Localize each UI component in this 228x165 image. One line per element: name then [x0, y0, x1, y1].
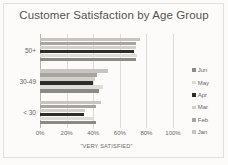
legend-item-jan[interactable]: Jan [192, 126, 226, 138]
bar-group-row [40, 85, 103, 88]
legend-label-feb: Feb [198, 117, 208, 123]
legend-item-may[interactable]: May [192, 76, 226, 88]
bar-jan-3049 [40, 69, 108, 72]
legend-swatch-mar [192, 106, 196, 110]
bar-group-row [40, 50, 134, 53]
bar-may-30 [40, 117, 93, 120]
legend-swatch-may [192, 81, 196, 85]
bar-group-row [40, 73, 97, 76]
chart-legend: JunMayAprMarFebJan [192, 64, 226, 138]
bar-jun-50 [40, 58, 136, 61]
legend-item-feb[interactable]: Feb [192, 114, 226, 126]
legend-swatch-apr [192, 93, 196, 97]
bar-group-row [40, 121, 96, 124]
legend-swatch-feb [192, 118, 196, 122]
bar-group-row [40, 46, 136, 49]
y-axis-label-3049: 30-49 [19, 78, 36, 85]
bar-jan-50 [40, 38, 140, 41]
legend-label-apr: Apr [198, 92, 207, 98]
bar-group-row [40, 81, 93, 84]
bar-group-row [40, 105, 96, 108]
bar-group-row [40, 54, 137, 57]
bar-jun-30 [40, 121, 96, 124]
chart-container: Customer Satisfaction by Age Group 50+30… [0, 0, 228, 165]
bar-may-50 [40, 54, 137, 57]
bar-group-row [40, 109, 85, 112]
bar-feb-30 [40, 105, 96, 108]
bar-mar-50 [40, 46, 136, 49]
legend-label-jun: Jun [198, 67, 208, 73]
bar-group-row [40, 58, 136, 61]
y-axis-category-labels: 50+30-49< 30 [0, 34, 38, 128]
bar-apr-3049 [40, 81, 93, 84]
legend-label-jan: Jan [198, 129, 208, 135]
x-axis-tick-20: 20% [61, 130, 73, 136]
plot-area [40, 34, 173, 128]
y-axis-label-30: < 30 [23, 109, 36, 116]
bar-apr-30 [40, 113, 84, 116]
bar-mar-30 [40, 109, 85, 112]
legend-label-mar: Mar [198, 104, 208, 110]
bar-apr-50 [40, 50, 134, 53]
bar-group-row [40, 89, 99, 92]
gridline [146, 34, 147, 128]
x-axis-tick-40: 40% [87, 130, 99, 136]
x-axis-tick-80: 80% [140, 130, 152, 136]
bar-mar-3049 [40, 77, 95, 80]
legend-item-apr[interactable]: Apr [192, 89, 226, 101]
x-axis-tick-100: 100% [165, 130, 180, 136]
bar-group-row [40, 117, 93, 120]
chart-title: Customer Satisfaction by Age Group [14, 9, 214, 21]
bar-jun-3049 [40, 89, 99, 92]
bar-feb-50 [40, 42, 136, 45]
legend-swatch-jan [192, 130, 196, 134]
x-axis-title: "VERY SATISFIED" [40, 143, 173, 149]
bar-may-3049 [40, 85, 103, 88]
bar-group-row [40, 113, 84, 116]
y-axis-label-50: 50+ [25, 46, 36, 53]
legend-label-may: May [198, 80, 209, 86]
x-axis-tick-labels: 0%20%40%60%80%100% [40, 130, 173, 140]
bar-jan-30 [40, 101, 101, 104]
x-axis-tick-0: 0% [36, 130, 45, 136]
bar-group-row [40, 77, 95, 80]
bar-group-row [40, 101, 101, 104]
bar-feb-3049 [40, 73, 97, 76]
legend-swatch-jun [192, 68, 196, 72]
bar-group-row [40, 69, 108, 72]
bar-group-row [40, 38, 140, 41]
x-axis-tick-60: 60% [114, 130, 126, 136]
legend-item-jun[interactable]: Jun [192, 64, 226, 76]
bar-group-row [40, 42, 136, 45]
legend-item-mar[interactable]: Mar [192, 101, 226, 113]
gridline [173, 34, 174, 128]
